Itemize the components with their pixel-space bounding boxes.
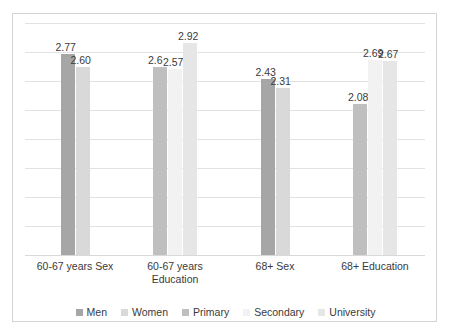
bar-value-label: 2.60 xyxy=(71,54,91,66)
bar-series-layer: 2.772.602.62.572.922.432.312.082.692.67 xyxy=(25,23,425,255)
x-axis-label-line: 60-67 years Sex xyxy=(25,260,125,273)
bar[interactable] xyxy=(61,54,75,255)
chart-frame: 2.772.602.62.572.922.432.312.082.692.67 … xyxy=(12,13,437,322)
bar[interactable] xyxy=(276,88,290,255)
x-axis-label: 60-67 years Sex xyxy=(25,260,125,273)
x-axis-label: 68+ Education xyxy=(325,260,425,273)
legend-item[interactable]: Men xyxy=(76,306,107,318)
bar-value-label: 2.92 xyxy=(178,30,198,42)
legend-swatch-icon xyxy=(318,309,325,316)
x-axis-label-line: 68+ Sex xyxy=(225,260,325,273)
bar-value-label: 2.57 xyxy=(163,56,183,68)
bar[interactable] xyxy=(261,79,275,255)
plot-area: 2.772.602.62.572.922.432.312.082.692.67 xyxy=(25,23,425,255)
legend-label: Women xyxy=(132,306,168,318)
legend-label: Primary xyxy=(193,306,229,318)
legend-swatch-icon xyxy=(76,309,83,316)
x-axis-labels: 60-67 years Sex60-67 yearsEducation68+ S… xyxy=(25,260,425,300)
legend-item[interactable]: Women xyxy=(121,306,168,318)
chart-legend: MenWomenPrimarySecondaryUniversity xyxy=(13,306,438,318)
legend-swatch-icon xyxy=(243,309,250,316)
bar[interactable] xyxy=(168,69,182,255)
bar-value-label: 2.6 xyxy=(148,54,163,66)
x-axis-label-line: 60-67 years xyxy=(125,260,225,273)
legend-label: Men xyxy=(87,306,107,318)
bar-value-label: 2.31 xyxy=(271,75,291,87)
bar[interactable] xyxy=(353,104,367,255)
axis-baseline xyxy=(25,255,425,256)
x-axis-label: 60-67 yearsEducation xyxy=(125,260,225,286)
bar-value-label: 2.08 xyxy=(348,91,368,103)
bar[interactable] xyxy=(153,67,167,256)
legend-label: Secondary xyxy=(254,306,304,318)
x-axis-label-line: 68+ Education xyxy=(325,260,425,273)
legend-item[interactable]: University xyxy=(318,306,375,318)
x-axis-label-line: Education xyxy=(125,273,225,286)
legend-item[interactable]: Secondary xyxy=(243,306,304,318)
bar-value-label: 2.67 xyxy=(378,48,398,60)
bar-value-label: 2.77 xyxy=(56,41,76,53)
legend-swatch-icon xyxy=(121,309,128,316)
legend-label: University xyxy=(329,306,375,318)
legend-swatch-icon xyxy=(182,309,189,316)
bar[interactable] xyxy=(76,67,90,256)
bar[interactable] xyxy=(383,61,397,255)
bar[interactable] xyxy=(183,43,197,255)
legend-item[interactable]: Primary xyxy=(182,306,229,318)
bar[interactable] xyxy=(368,60,382,255)
x-axis-label: 68+ Sex xyxy=(225,260,325,273)
